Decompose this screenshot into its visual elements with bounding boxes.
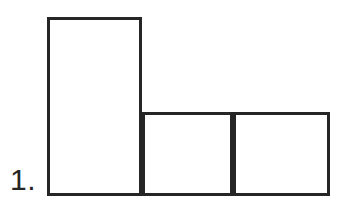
middle-square	[144, 114, 232, 195]
figure-page: 1.	[0, 0, 354, 211]
composite-figure	[0, 0, 354, 211]
right-square	[235, 114, 329, 195]
tall-left-rectangle	[49, 19, 141, 195]
